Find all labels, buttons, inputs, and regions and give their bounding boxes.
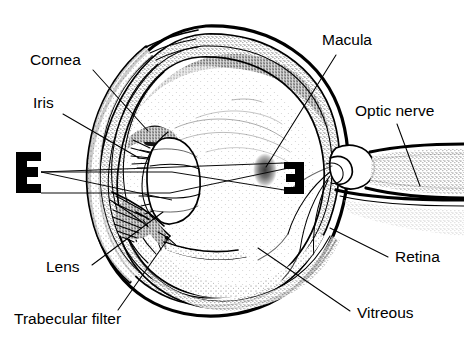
object-letter-e bbox=[16, 152, 41, 193]
eye-anatomy-figure: Cornea Iris Lens Trabecular filter Macul… bbox=[0, 0, 464, 349]
label-retina: Retina bbox=[395, 248, 440, 265]
label-iris: Iris bbox=[33, 94, 54, 111]
label-optic-nerve: Optic nerve bbox=[355, 102, 434, 119]
retinal-image-letter-e bbox=[284, 162, 304, 194]
label-trabecular-filter: Trabecular filter bbox=[14, 310, 121, 327]
label-vitreous: Vitreous bbox=[357, 304, 414, 321]
label-cornea: Cornea bbox=[30, 51, 81, 68]
eye-diagram-svg: Cornea Iris Lens Trabecular filter Macul… bbox=[0, 0, 464, 349]
lens bbox=[147, 138, 200, 224]
label-macula: Macula bbox=[322, 31, 372, 48]
macula-spot bbox=[253, 153, 277, 187]
label-lens: Lens bbox=[46, 258, 80, 275]
